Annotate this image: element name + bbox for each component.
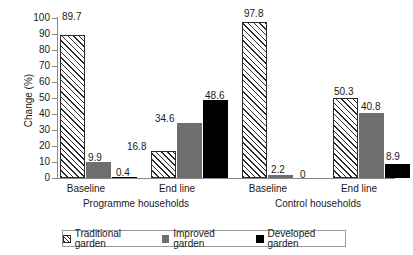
x-tick-label-baseline-programme: Baseline xyxy=(41,183,131,194)
y-tick-label: 10 xyxy=(26,157,50,167)
bar-value-label: 16.8 xyxy=(127,142,146,152)
legend-item-traditional: Traditional garden xyxy=(63,229,151,249)
x-tick-label-baseline-control: Baseline xyxy=(223,183,313,194)
bar-value-label: 0 xyxy=(300,170,306,180)
bar-value-label: 97.8 xyxy=(244,9,263,19)
y-tick-label: 70 xyxy=(26,61,50,71)
bar-value-label: 34.6 xyxy=(155,114,174,124)
y-tick-label: 100 xyxy=(26,13,50,23)
legend: Traditional garden Improved garden Devel… xyxy=(62,230,346,247)
y-tick xyxy=(52,178,57,179)
legend-item-developed: Developed garden xyxy=(256,229,345,249)
y-tick-label: 90 xyxy=(26,29,50,39)
y-tick-label: 80 xyxy=(26,45,50,55)
bar-traditional xyxy=(242,22,267,179)
bar-value-label: 0.4 xyxy=(116,168,130,178)
x-group-label-control: Control households xyxy=(223,198,413,209)
x-group-label-programme: Programme households xyxy=(41,198,231,209)
x-axis-line xyxy=(57,178,395,179)
bar-improved xyxy=(177,123,202,178)
y-tick-label: 0 xyxy=(26,173,50,183)
bar-value-label: 8.9 xyxy=(386,152,400,162)
legend-label: Improved garden xyxy=(173,229,245,249)
plot-area: 89.7 9.9 0.4 16.8 34.6 48.6 97.8 2.2 0 5… xyxy=(57,18,395,178)
bar-improved xyxy=(359,113,384,178)
y-tick-label: 20 xyxy=(26,141,50,151)
y-tick-label: 30 xyxy=(26,125,50,135)
y-tick-label: 50 xyxy=(26,93,50,103)
legend-label: Developed garden xyxy=(268,229,346,249)
legend-label: Traditional garden xyxy=(75,229,151,249)
bar-value-label: 89.7 xyxy=(62,12,81,22)
bar-traditional xyxy=(333,98,358,179)
bar-improved xyxy=(268,175,293,179)
bar-value-label: 2.2 xyxy=(271,165,285,175)
legend-item-improved: Improved garden xyxy=(162,229,245,249)
x-tick-label-endline-control: End line xyxy=(314,183,404,194)
x-tick-label-endline-programme: End line xyxy=(132,183,222,194)
legend-swatch-improved-icon xyxy=(162,235,170,243)
bar-traditional xyxy=(151,151,176,178)
bar-value-label: 50.3 xyxy=(334,87,353,97)
bar-value-label: 40.8 xyxy=(361,102,380,112)
bar-value-label: 48.6 xyxy=(205,91,224,101)
y-tick-label: 60 xyxy=(26,77,50,87)
legend-swatch-developed-icon xyxy=(256,235,264,243)
bar-developed xyxy=(385,164,410,178)
bar-improved xyxy=(86,162,111,178)
bar-traditional xyxy=(60,35,85,179)
legend-swatch-traditional-icon xyxy=(63,235,71,243)
y-tick-label: 40 xyxy=(26,109,50,119)
bar-value-label: 9.9 xyxy=(88,153,102,163)
bar-developed xyxy=(203,100,228,178)
